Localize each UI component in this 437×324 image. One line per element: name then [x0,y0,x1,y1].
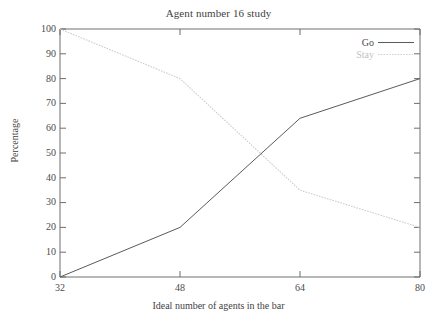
x-axis-ticks [60,29,420,277]
chart-plot-area [0,0,437,324]
series-line-stay [60,29,420,227]
y-axis-ticks [60,29,420,277]
axis-frame [60,29,420,277]
chart-figure: Agent number 16 study Percentage Ideal n… [0,0,437,324]
series-line-go [60,79,420,277]
